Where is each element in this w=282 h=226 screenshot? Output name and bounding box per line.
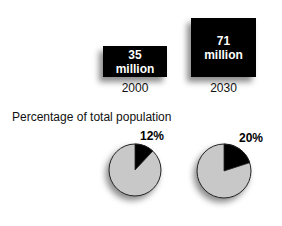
year-2030-label: 2030 xyxy=(191,81,256,95)
box-2000-unit: million xyxy=(103,62,167,76)
pie-2000 xyxy=(105,140,165,200)
box-2000: 35 million xyxy=(103,46,167,77)
pie-section-title: Percentage of total population xyxy=(12,110,171,124)
box-2030-value: 71 xyxy=(191,34,256,48)
pie-2030 xyxy=(194,141,254,201)
box-2000-value: 35 xyxy=(103,48,167,62)
year-2000-label: 2000 xyxy=(103,81,167,95)
box-2030-unit: million xyxy=(191,48,256,62)
box-2030: 71 million xyxy=(191,18,256,77)
